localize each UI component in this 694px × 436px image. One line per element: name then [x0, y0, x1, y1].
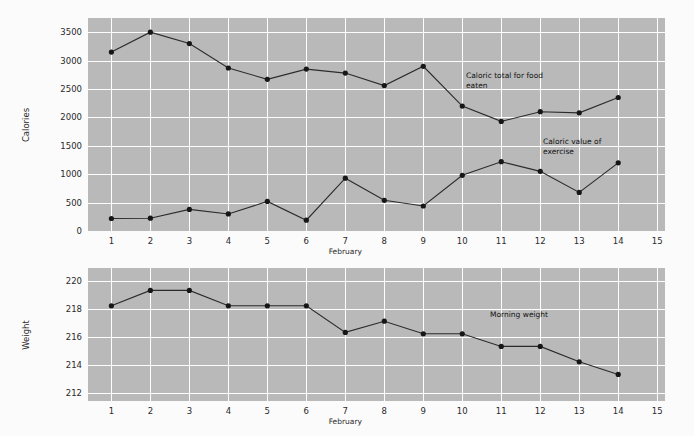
data-point: [421, 203, 426, 208]
data-point: [187, 288, 192, 293]
data-point: [187, 41, 192, 46]
x-axis-tick-label: 12: [535, 236, 546, 246]
data-point: [460, 103, 465, 108]
y-axis-tick-label: 500: [66, 198, 82, 208]
data-point: [538, 344, 543, 349]
data-point: [577, 359, 582, 364]
data-point: [304, 303, 309, 308]
x-axis-tick-label: 5: [265, 236, 270, 246]
y-axis-tick-label: 1000: [60, 169, 82, 179]
y-axis-tick-label: 212: [66, 388, 82, 398]
x-axis-tick-label: 6: [304, 236, 309, 246]
y-axis-tick-label: 214: [66, 360, 82, 370]
x-axis-tick-label: 3: [187, 406, 192, 416]
y-axis-tick-label: 2500: [60, 84, 82, 94]
calories-y-axis-title: Calories: [21, 107, 31, 141]
x-axis-tick-label: 8: [382, 236, 387, 246]
x-axis-tick-label: 15: [652, 406, 663, 416]
data-point: [148, 30, 153, 35]
data-point: [226, 303, 231, 308]
x-axis-tick-label: 15: [652, 236, 663, 246]
y-axis-tick-label: 0: [77, 226, 82, 236]
x-axis-tick-label: 13: [574, 236, 585, 246]
x-axis-tick-label: 9: [421, 406, 426, 416]
data-point: [265, 77, 270, 82]
weight-y-axis-title: Weight: [21, 320, 31, 350]
data-point: [538, 109, 543, 114]
calories-chart: 0500100015002000250030003500 12345678910…: [0, 0, 694, 250]
data-point: [265, 199, 270, 204]
y-axis-tick-label: 1500: [60, 141, 82, 151]
data-point: [499, 159, 504, 164]
calories-series-layer: [0, 0, 694, 250]
annotation-morning-weight: Morning weight: [490, 310, 548, 320]
x-axis-tick-label: 6: [304, 406, 309, 416]
x-axis-tick-label: 4: [226, 406, 231, 416]
x-axis-tick-label: 10: [457, 236, 468, 246]
data-point: [304, 218, 309, 223]
data-point: [109, 303, 114, 308]
data-point: [187, 207, 192, 212]
x-axis-tick-label: 11: [496, 406, 507, 416]
data-point: [304, 67, 309, 72]
annotation-food-total: Caloric total for food eaten: [466, 71, 543, 90]
x-axis-tick-label: 8: [382, 406, 387, 416]
x-axis-tick-label: 2: [148, 406, 153, 416]
data-point: [226, 65, 231, 70]
x-axis-tick-label: 14: [613, 406, 624, 416]
data-point: [109, 49, 114, 54]
x-axis-tick-label: 7: [343, 236, 348, 246]
x-axis-tick-label: 10: [457, 406, 468, 416]
data-point: [499, 344, 504, 349]
data-point: [148, 288, 153, 293]
data-point: [109, 216, 114, 221]
data-point: [616, 95, 621, 100]
weight-chart: 212214216218220 123456789101112131415 We…: [0, 258, 694, 436]
data-point: [148, 216, 153, 221]
x-axis-tick-label: 14: [613, 236, 624, 246]
data-point: [460, 173, 465, 178]
data-point: [460, 331, 465, 336]
x-axis-tick-label: 5: [265, 406, 270, 416]
data-point: [343, 176, 348, 181]
y-axis-tick-label: 216: [66, 332, 82, 342]
chart-page: 0500100015002000250030003500 12345678910…: [0, 0, 694, 436]
series-line-0: [111, 290, 618, 374]
y-axis-tick-label: 3000: [60, 56, 82, 66]
data-point: [421, 64, 426, 69]
data-point: [616, 372, 621, 377]
weight-x-axis-title: February: [329, 417, 362, 426]
data-point: [382, 83, 387, 88]
calories-x-axis-title: February: [329, 247, 362, 256]
data-point: [616, 160, 621, 165]
data-point: [577, 110, 582, 115]
data-point: [382, 198, 387, 203]
x-axis-tick-label: 2: [148, 236, 153, 246]
data-point: [343, 330, 348, 335]
x-axis-tick-label: 11: [496, 236, 507, 246]
x-axis-tick-label: 7: [343, 406, 348, 416]
y-axis-tick-label: 2000: [60, 112, 82, 122]
data-point: [421, 331, 426, 336]
data-point: [538, 169, 543, 174]
x-axis-tick-label: 9: [421, 236, 426, 246]
x-axis-tick-label: 1: [109, 406, 114, 416]
y-axis-tick-label: 218: [66, 304, 82, 314]
annotation-exercise-value: Caloric value of exercise: [543, 137, 601, 156]
y-axis-tick-label: 3500: [60, 27, 82, 37]
data-point: [226, 211, 231, 216]
data-point: [343, 70, 348, 75]
data-point: [382, 319, 387, 324]
y-axis-tick-label: 220: [66, 276, 82, 286]
x-axis-tick-label: 3: [187, 236, 192, 246]
data-point: [265, 303, 270, 308]
x-axis-tick-label: 1: [109, 236, 114, 246]
x-axis-tick-label: 4: [226, 236, 231, 246]
data-point: [577, 190, 582, 195]
x-axis-tick-label: 12: [535, 406, 546, 416]
x-axis-tick-label: 13: [574, 406, 585, 416]
data-point: [499, 119, 504, 124]
